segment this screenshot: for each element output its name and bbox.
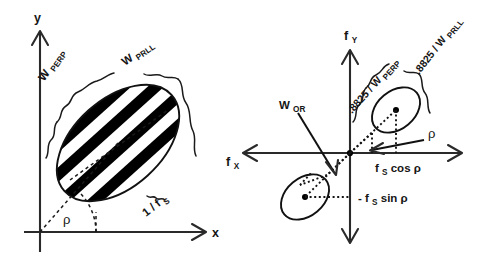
w-or-label: W OR: [279, 99, 305, 114]
fx-axis-label: f X: [226, 155, 240, 171]
bandwidth-prll-label: .8825 / W PRLL: [411, 14, 465, 78]
fy-axis: [342, 50, 358, 243]
fy-axis-label: f Y: [344, 29, 358, 45]
fourier-prll-brace-tail: [419, 74, 430, 113]
x-axis: [24, 224, 206, 240]
prll-brace: [144, 74, 178, 79]
perp-brace-tail: [46, 122, 57, 158]
fs-cos-rho-label: f S cos ρ: [375, 162, 421, 177]
fourier-rho-label: ρ: [428, 126, 435, 141]
rho-angle-label: ρ: [63, 212, 70, 227]
period-label: 1 / f S: [140, 191, 172, 221]
rho-angle-arrow: [370, 140, 424, 154]
fourier-domain-panel: f Y f X: [226, 14, 466, 243]
fs-sin-rho-label: - f S sin ρ: [358, 192, 408, 207]
y-axis-label: y: [34, 11, 41, 25]
prll-brace-tail: [178, 79, 196, 156]
y-axis: [32, 31, 48, 252]
w-prll-label: W PRLL: [119, 37, 157, 70]
wor-leader-arrow: [298, 113, 338, 175]
figure-container: y x: [0, 0, 489, 265]
spatial-domain-panel: y x: [0, 6, 231, 265]
x-axis-label: x: [212, 226, 219, 240]
figure-svg: y x: [0, 0, 489, 265]
